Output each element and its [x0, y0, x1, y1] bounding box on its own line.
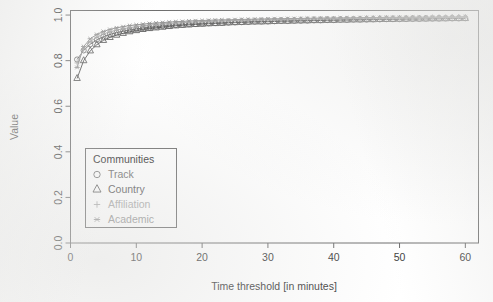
legend-entry-label: Affiliation	[108, 198, 151, 210]
x-tick-label: 40	[328, 251, 340, 263]
x-tick-label: 50	[394, 251, 406, 263]
legend-entry-label: Academic	[108, 213, 154, 225]
x-tick-label: 10	[130, 251, 142, 263]
x-tick-label: 60	[459, 251, 471, 263]
y-axis-title: Value	[8, 114, 20, 140]
x-tick-label: 0	[68, 251, 74, 263]
chart-figure: 0.00.20.40.60.81.0 0102030405060 Value T…	[0, 0, 493, 302]
chart-background	[0, 0, 493, 302]
y-tick-label: 0.4	[52, 144, 64, 159]
y-tick-label: 0.8	[52, 53, 64, 68]
x-axis-title: Time threshold [in minutes]	[211, 280, 337, 292]
y-tick-label: 0.2	[52, 190, 64, 205]
legend-entry-label: Country	[108, 183, 146, 195]
chart-legend: Communities TrackCountryAffiliationAcade…	[86, 149, 177, 228]
legend-entry-label: Track	[108, 168, 135, 180]
y-tick-label: 0.0	[52, 236, 64, 251]
y-tick-label: 1.0	[52, 8, 64, 23]
x-tick-label: 30	[262, 251, 274, 263]
y-tick-label: 0.6	[52, 99, 64, 114]
x-tick-label: 20	[196, 251, 208, 263]
line-chart: 0.00.20.40.60.81.0 0102030405060 Value T…	[0, 0, 493, 302]
legend-title: Communities	[93, 153, 154, 165]
